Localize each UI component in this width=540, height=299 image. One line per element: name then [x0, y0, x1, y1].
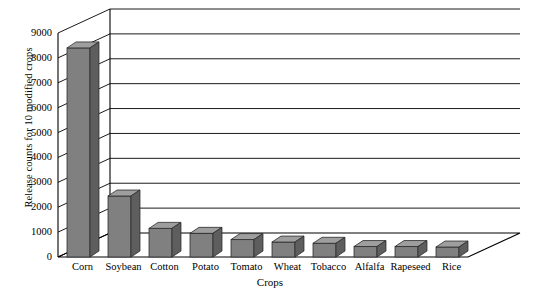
x-tick-label-rapeseed: Rapeseed [390, 261, 431, 272]
bar-rice[interactable] [436, 241, 468, 257]
y-tick-label-0: 0 [6, 251, 52, 262]
bar-front-face [149, 228, 172, 257]
x-tick-label-corn: Corn [62, 261, 103, 272]
x-tick-label-potato: Potato [185, 261, 226, 272]
x-tick-label-tobacco: Tobacco [308, 261, 349, 272]
y-tick-label-6000: 6000 [6, 102, 52, 113]
x-tick-label-alfalfa: Alfalfa [349, 261, 390, 272]
bar-wheat[interactable] [272, 236, 304, 257]
bar-front-face [313, 243, 336, 257]
bar-side-face [131, 190, 140, 257]
y-tick-label-4000: 4000 [6, 151, 52, 162]
bar-front-face [67, 48, 90, 257]
y-tick-label-5000: 5000 [6, 127, 52, 138]
gridline-depth-9000 [58, 9, 110, 33]
y-tick-label-3000: 3000 [6, 176, 52, 187]
bar-front-face [436, 247, 459, 257]
bar-cotton[interactable] [149, 222, 181, 257]
bar-front-face [231, 240, 254, 257]
bar-corn[interactable] [67, 42, 99, 257]
bar-chart: Release counts for 10 modified crops Cro… [0, 0, 540, 299]
bar-front-face [354, 247, 377, 257]
bar-soybean[interactable] [108, 190, 140, 257]
y-tick-label-9000: 9000 [6, 27, 52, 38]
bar-front-face [395, 247, 418, 257]
x-tick-label-soybean: Soybean [103, 261, 144, 272]
bar-tomato[interactable] [231, 234, 263, 257]
plot-area [0, 0, 540, 299]
x-tick-label-rice: Rice [431, 261, 472, 272]
y-tick-label-7000: 7000 [6, 77, 52, 88]
bar-side-face [172, 222, 181, 257]
y-tick-label-8000: 8000 [6, 52, 52, 63]
bar-side-face [90, 42, 99, 257]
y-tick-label-1000: 1000 [6, 226, 52, 237]
bar-front-face [272, 242, 295, 257]
bar-front-face [108, 196, 131, 257]
x-tick-label-wheat: Wheat [267, 261, 308, 272]
bar-potato[interactable] [190, 227, 222, 257]
bar-rapeseed[interactable] [395, 241, 427, 257]
x-tick-label-tomato: Tomato [226, 261, 267, 272]
bar-alfalfa[interactable] [354, 241, 386, 257]
bar-tobacco[interactable] [313, 237, 345, 257]
x-tick-label-cotton: Cotton [144, 261, 185, 272]
bar-front-face [190, 233, 213, 257]
y-tick-label-2000: 2000 [6, 201, 52, 212]
